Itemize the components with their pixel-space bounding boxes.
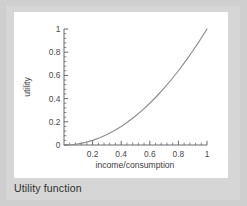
x-tick-label: 1	[205, 149, 210, 159]
y-axis-ticks	[64, 29, 68, 145]
figure-caption: Utility function	[14, 182, 234, 200]
y-tick-label: 0	[56, 140, 61, 150]
y-axis-tick-labels: 00.20.40.60.81	[49, 24, 61, 150]
page-edge-top	[0, 0, 247, 6]
x-tick-label: 0.8	[173, 149, 185, 159]
x-axis-title: income/consumption	[96, 160, 175, 170]
y-tick-label: 1	[56, 24, 61, 34]
y-tick-label: 0.4	[49, 94, 61, 104]
y-tick-label: 0.6	[49, 70, 61, 80]
y-tick-label: 0.8	[49, 47, 61, 57]
utility-function-chart: 00.20.40.60.81 0.20.40.60.81 income/cons…	[14, 12, 228, 178]
x-axis-tick-labels: 0.20.40.60.81	[87, 149, 210, 159]
y-axis-title: utility	[22, 77, 32, 97]
utility-curve	[64, 29, 207, 145]
figure-container: 00.20.40.60.81 0.20.40.60.81 income/cons…	[0, 0, 247, 206]
x-tick-label: 0.6	[144, 149, 156, 159]
page-edge-right	[240, 0, 247, 206]
x-tick-label: 0.2	[87, 149, 99, 159]
chart-axes	[64, 29, 207, 145]
page-edge-bottom	[0, 200, 247, 206]
y-tick-label: 0.2	[49, 117, 61, 127]
x-tick-label: 0.4	[115, 149, 127, 159]
page-edge-left	[0, 0, 6, 206]
chart-panel: 00.20.40.60.81 0.20.40.60.81 income/cons…	[14, 12, 228, 178]
